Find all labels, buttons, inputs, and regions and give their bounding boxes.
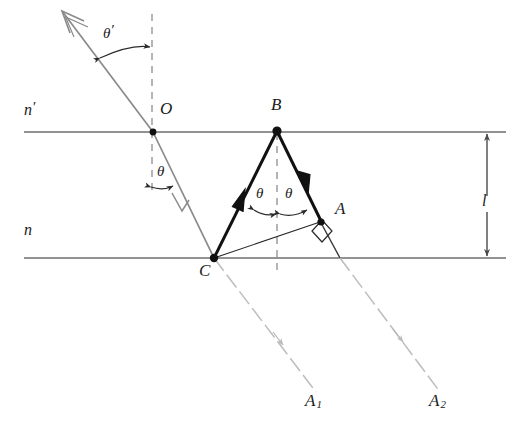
point-label-A2-subscript: 2 <box>439 398 446 410</box>
medium-label-upper: n′ <box>24 100 35 118</box>
internal-bold-rays <box>214 131 322 258</box>
point-label-A: A <box>335 200 345 217</box>
arc-theta-prism-left <box>254 210 276 215</box>
bold-ray-B-to-A-arrowhead <box>296 170 310 195</box>
interface-lines <box>24 132 506 258</box>
medium-label-upper-prime: ′ <box>32 99 35 115</box>
medium-label-upper-text: n <box>24 101 32 118</box>
angle-label-theta-prism-left: θ <box>256 186 263 201</box>
arc-theta-prime <box>100 46 150 58</box>
point-dot-A <box>317 218 324 225</box>
refracted-ray-O-to-C <box>153 132 214 258</box>
point-dot-C <box>210 254 218 262</box>
point-label-A2-letter: A <box>429 391 439 410</box>
point-markers <box>150 126 325 262</box>
point-dot-B <box>272 126 281 135</box>
angle-label-theta-prime: θ′ <box>103 23 114 41</box>
point-label-A1-subscript: 1 <box>315 398 322 410</box>
point-label-A1: A1 <box>305 392 322 410</box>
point-label-C: C <box>199 262 210 279</box>
arc-theta-prism-right <box>280 210 307 215</box>
transmitted-ray-C-to-A1 <box>214 258 316 392</box>
refracted-ray-segment <box>153 132 214 258</box>
exit-ray-A-to-A2 <box>320 221 440 392</box>
medium-label-lower: n <box>24 222 32 238</box>
point-label-O: O <box>160 100 172 117</box>
exit-ray-surface-to-A2 <box>340 258 440 392</box>
arc-theta-refraction <box>151 186 173 189</box>
point-label-A2: A2 <box>429 392 446 410</box>
chord-C-to-A <box>214 220 332 258</box>
angle-label-theta-prime-mark: ′ <box>110 22 113 38</box>
angle-label-theta-prism-right: θ <box>285 186 292 201</box>
normal-lines <box>152 14 277 272</box>
bold-ray-C-to-B <box>214 131 277 258</box>
point-label-B: B <box>271 96 281 113</box>
ray-C-to-A1-dashed <box>214 258 316 392</box>
angle-label-theta-refraction: θ <box>157 164 164 179</box>
point-label-A1-letter: A <box>305 391 315 410</box>
point-dot-O <box>150 129 157 136</box>
bold-ray-C-to-B-arrowhead <box>232 189 245 212</box>
exit-ray-A-to-surface <box>320 221 340 258</box>
diagram-canvas <box>0 0 523 438</box>
exit-ray-mid-arrow <box>393 329 403 342</box>
ray-diagram-figure: n′ n O B A C A1 A2 θ′ θ θ θ l <box>0 0 523 438</box>
thickness-label-l: l <box>482 193 486 209</box>
